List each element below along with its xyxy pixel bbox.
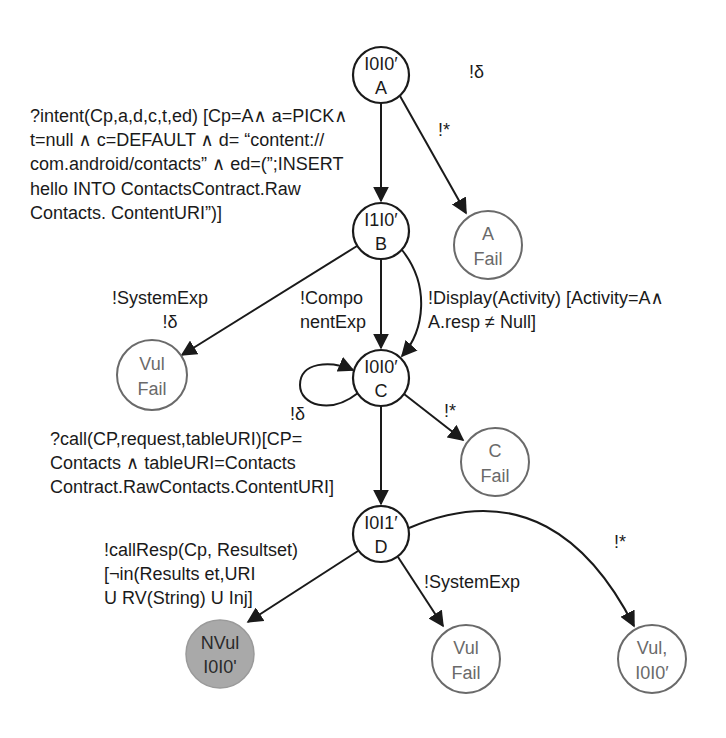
node-d-name: D [375, 537, 388, 557]
label-a-to-b-line2: t=null ∧ c=DEFAULT ∧ d= “content:// [30, 130, 324, 150]
node-b-label: I1I0′ [364, 210, 398, 230]
node-a-fail: A Fail [454, 211, 522, 279]
node-nvul-line2: I0I0' [203, 657, 236, 677]
node-nvul: NVul I0I0' [186, 620, 254, 688]
label-a-to-b-line4: hello INTO ContactsContract.Raw [30, 179, 302, 199]
node-d-label: I0I1′ [364, 513, 398, 533]
label-b-to-c-component-line1: !Compo [300, 288, 363, 308]
node-vul-fail-d-line1: Vul [453, 638, 478, 658]
edge-d-to-vul [409, 511, 634, 626]
node-c-label: I0I0′ [364, 357, 398, 377]
node-vul-fail-b: Vul Fail [117, 340, 187, 410]
node-c-name: C [375, 381, 388, 401]
node-c-fail-line2: Fail [480, 466, 509, 486]
node-b-name: B [375, 234, 387, 254]
label-d-to-nvul-line2: [¬in(Results et,URI [104, 564, 256, 584]
label-b-to-vul-line2: !δ [162, 312, 177, 332]
node-a-fail-line2: Fail [473, 249, 502, 269]
node-vul-d-line1: Vul, [637, 638, 667, 658]
label-b-to-vul-line1: !SystemExp [112, 288, 208, 308]
node-vul-fail-d: Vul Fail [432, 625, 500, 693]
node-c-fail: C Fail [461, 428, 529, 496]
label-c-to-d-line3: Contract.RawContacts.ContentURI] [50, 477, 334, 497]
label-c-to-d-line1: ?call(CP,request,tableURI)[CP= [50, 429, 302, 449]
label-a-to-b-line5: Contacts. ContentURI”)] [30, 203, 222, 223]
node-a-name: A [375, 78, 387, 98]
label-b-to-c-component-line2: nentExp [300, 312, 366, 332]
edge-a-to-fail [400, 96, 466, 213]
node-a-label: I0I0′ [364, 54, 398, 74]
node-vul-d: Vul, I0I0′ [618, 625, 686, 693]
label-d-to-nvul-line3: U RV(String) U Inj] [104, 588, 253, 608]
edge-c-self-loop [300, 364, 358, 405]
label-c-to-fail: !* [444, 401, 456, 421]
node-a: I0I0′ A [353, 47, 409, 103]
label-a-to-b-line1: ?intent(Cp,a,d,c,t,ed) [Cp=A∧ a=PICK∧ [30, 106, 348, 126]
label-a-to-b-line3: com.android/contacts” ∧ ed=(”;INSERT [30, 154, 343, 174]
edge-d-to-nvul [248, 551, 358, 622]
node-d: I0I1′ D [353, 506, 409, 562]
label-d-to-vul-fail: !SystemExp [424, 572, 520, 592]
node-vul-fail-b-line2: Fail [137, 379, 166, 399]
edge-labels: !δ ?intent(Cp,a,d,c,t,ed) [Cp=A∧ a=PICK∧… [30, 62, 664, 608]
node-a-fail-line1: A [482, 224, 494, 244]
label-c-self: !δ [290, 404, 305, 424]
label-b-to-c-display-line2: A.resp ≠ Null] [428, 312, 536, 332]
node-vul-d-line2: I0I0′ [635, 663, 669, 683]
state-diagram: I0I0′ A I1I0′ B A Fail Vul Fail I0I0′ C … [0, 0, 726, 738]
node-b: I1I0′ B [353, 203, 409, 259]
node-vul-fail-d-line2: Fail [451, 663, 480, 683]
label-a-quiescence: !δ [469, 62, 484, 82]
node-nvul-line1: NVul [201, 633, 239, 653]
label-c-to-d-line2: Contacts ∧ tableURI=Contacts [50, 453, 296, 473]
label-d-to-vul: !* [614, 532, 626, 552]
edge-b-to-c-display [402, 250, 421, 356]
node-c: I0I0′ C [353, 350, 409, 406]
label-d-to-nvul-line1: !callResp(Cp, Resultset) [104, 540, 298, 560]
node-c-fail-line1: C [489, 441, 502, 461]
label-a-to-fail: !* [438, 120, 450, 140]
node-vul-fail-b-line1: Vul [139, 354, 164, 374]
label-b-to-c-display-line1: !Display(Activity) [Activity=A∧ [428, 288, 664, 308]
